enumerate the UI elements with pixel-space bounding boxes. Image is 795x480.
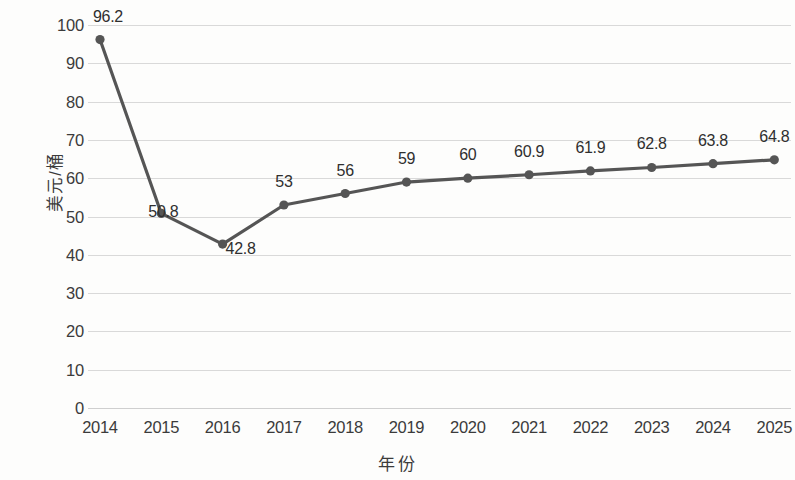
x-axis-tick: 2024 <box>683 418 743 437</box>
y-axis-tick: 20 <box>38 322 84 341</box>
data-point-label: 64.8 <box>741 128 795 146</box>
y-axis-tick: 0 <box>38 399 84 418</box>
gridline <box>88 255 791 256</box>
gridline <box>88 370 791 371</box>
x-axis-tick: 2018 <box>315 418 375 437</box>
data-point-label: 63.8 <box>680 132 746 150</box>
x-axis-tick: 2017 <box>254 418 314 437</box>
x-axis-tick: 2022 <box>560 418 620 437</box>
y-axis-tick: 70 <box>38 130 84 149</box>
data-point-label: 61.9 <box>557 139 623 157</box>
gridline <box>88 102 791 103</box>
data-point-label: 59 <box>374 150 440 168</box>
y-axis-tick: 50 <box>38 207 84 226</box>
data-point-label: 50.8 <box>130 203 196 221</box>
x-axis-tick-labels: 2014201520162017201820192020202120222023… <box>0 418 795 442</box>
data-point-label: 60 <box>435 146 501 164</box>
data-point-label: 56 <box>312 162 378 180</box>
gridline <box>88 408 791 409</box>
y-axis-tick: 80 <box>38 92 84 111</box>
y-axis-tick: 10 <box>38 360 84 379</box>
x-axis-tick: 2014 <box>70 418 130 437</box>
gridline <box>88 178 791 179</box>
x-axis-title: 年份 <box>0 450 795 475</box>
data-point-label: 53 <box>251 173 317 191</box>
data-point-label: 96.2 <box>75 8 141 26</box>
line-chart: 美元/桶 0102030405060708090100 96.250.842.8… <box>0 0 795 480</box>
x-axis-tick: 2023 <box>622 418 682 437</box>
gridline <box>88 293 791 294</box>
x-axis-tick: 2025 <box>744 418 795 437</box>
data-point-label: 60.9 <box>496 143 562 161</box>
y-axis-tick: 30 <box>38 284 84 303</box>
y-axis-tick-labels: 0102030405060708090100 <box>0 25 84 408</box>
y-axis-tick: 60 <box>38 169 84 188</box>
gridline <box>88 331 791 332</box>
x-axis-tick: 2015 <box>131 418 191 437</box>
gridline <box>88 25 791 26</box>
y-axis-tick: 90 <box>38 54 84 73</box>
x-axis-tick: 2021 <box>499 418 559 437</box>
x-axis-tick: 2016 <box>193 418 253 437</box>
y-axis-tick: 40 <box>38 245 84 264</box>
data-point-label: 62.8 <box>619 135 685 153</box>
gridline <box>88 63 791 64</box>
x-axis-tick: 2019 <box>377 418 437 437</box>
data-point-label: 42.8 <box>208 240 274 258</box>
x-axis-tick: 2020 <box>438 418 498 437</box>
